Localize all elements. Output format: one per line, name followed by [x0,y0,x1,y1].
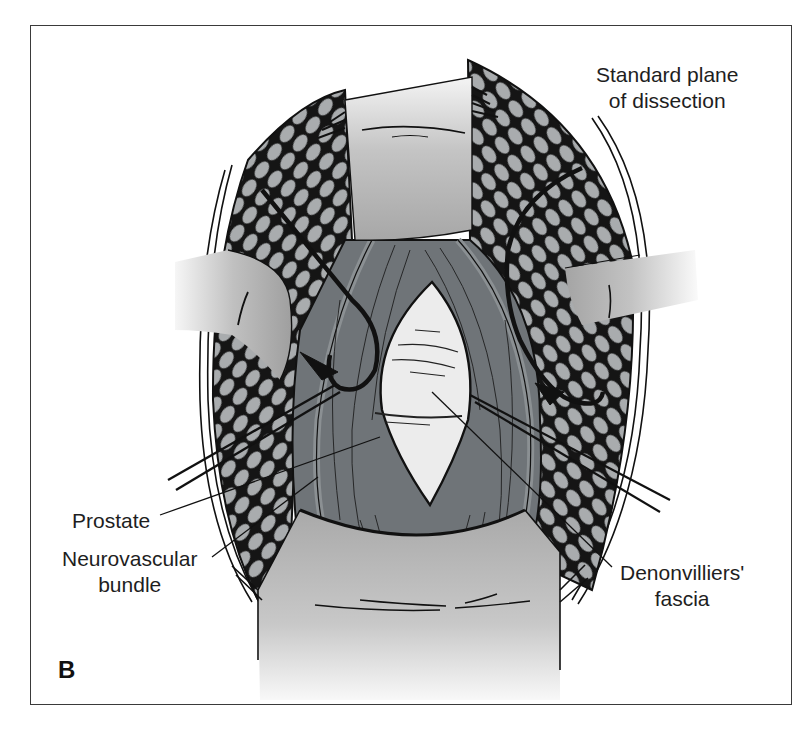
label-prostate: Prostate [72,508,150,534]
panel-letter: B [58,656,75,684]
label-neurovascular-bundle: Neurovascular bundle [62,546,197,598]
bottom-retractor [232,510,588,700]
label-standard-plane-of-dissection: Standard plane of dissection [596,62,738,114]
label-denonvilliers-fascia: Denonvilliers' fascia [620,560,744,612]
